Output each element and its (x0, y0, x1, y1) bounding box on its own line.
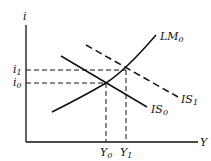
y1-label: Y1 (120, 146, 132, 160)
i0-label: i0 (13, 76, 22, 90)
i1-label: i1 (13, 63, 22, 77)
is1-curve (86, 45, 178, 97)
is0-label: IS0 (150, 103, 168, 117)
is0-curve (61, 56, 147, 107)
is1-label: IS1 (180, 93, 198, 107)
y-axis-label: i (23, 10, 27, 23)
lm0-curve (52, 35, 156, 112)
x-axis-label: Y (200, 136, 209, 149)
is-lm-diagram: i Y LM0 IS0 IS1 i1 i0 Y0 Y1 (0, 0, 211, 161)
lm0-label: LM0 (159, 30, 184, 44)
y0-label: Y0 (100, 146, 112, 160)
